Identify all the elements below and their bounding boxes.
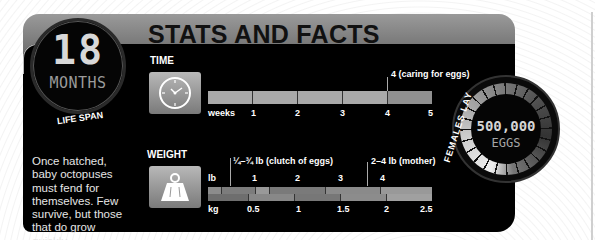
time-segment: [388, 91, 432, 104]
kg-segment: [387, 194, 432, 201]
kg-bar: [208, 194, 432, 201]
kg-tick: 2: [384, 204, 389, 214]
lb-bar: [208, 187, 432, 194]
kg-tick: 1: [296, 204, 301, 214]
time-tick: 2: [295, 108, 300, 118]
lb-segment: [326, 187, 382, 194]
kg-tick: 1.5: [337, 204, 350, 214]
lb-tick: 1: [252, 173, 257, 183]
lb-tick: 4: [380, 173, 385, 183]
time-segment: [253, 91, 298, 104]
time-bar: [208, 91, 432, 104]
clutch-marker-label: ¼–¾ lb (clutch of eggs): [233, 156, 333, 166]
time-tick: 5: [428, 108, 433, 118]
life-span-unit: MONTHS: [34, 74, 122, 92]
kg-segment: [208, 194, 249, 201]
kg-segment: [249, 194, 295, 201]
clutch-marker-line: [230, 158, 231, 186]
lb-tick: 3: [338, 173, 343, 183]
lb-axis-label: lb: [208, 173, 216, 183]
kg-tick: 0.5: [247, 204, 260, 214]
life-span-value: 18: [34, 30, 122, 70]
kg-tick: 2.5: [420, 204, 433, 214]
eggs-value: 500,000: [456, 118, 556, 134]
time-icon-box: [149, 72, 201, 114]
blurb-text: Once hatched, baby octopuses must fend f…: [32, 155, 132, 240]
eggs-unit: EGGS: [456, 136, 556, 150]
time-segment: [343, 91, 388, 104]
time-segment: [208, 91, 253, 104]
time-segment: [298, 91, 343, 104]
lb-segment: [270, 187, 326, 194]
lb-segment: [208, 187, 222, 194]
time-marker-label: 4 (caring for eggs): [391, 69, 470, 79]
mother-marker-line: [367, 162, 368, 186]
weight-icon: [157, 169, 193, 205]
lb-segment: [256, 187, 270, 194]
time-tick: 1: [251, 108, 256, 118]
time-axis-label: weeks: [208, 108, 235, 118]
page-title: STATS AND FACTS: [148, 20, 380, 49]
clock-icon: [157, 75, 193, 111]
kg-axis-label: kg: [208, 204, 219, 214]
weight-icon-box: [149, 166, 201, 208]
time-tick: 4: [385, 108, 390, 118]
weight-section-label: WEIGHT: [147, 149, 187, 160]
lb-segment: [222, 187, 257, 194]
lb-tick: 2: [295, 173, 300, 183]
mother-marker-label: 2–4 lb (mother): [371, 156, 436, 166]
time-tick: 3: [340, 108, 345, 118]
page-divider: [591, 12, 593, 240]
kg-segment: [295, 194, 341, 201]
kg-segment: [341, 194, 387, 201]
time-section-label: TIME: [150, 55, 174, 66]
lb-segment: [381, 187, 432, 194]
